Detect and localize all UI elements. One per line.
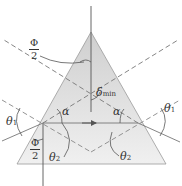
theta1-right-label: θ1 — [164, 103, 175, 114]
theta1-left-arc — [16, 108, 22, 136]
prism-diagram: Φ 2 δmin α α θ1 θ1 Φ 2 θ2 θ2 — [0, 0, 182, 186]
alpha-right-label: α — [113, 106, 120, 117]
alpha-left-label: α — [62, 106, 69, 117]
theta1-left-label: θ1 — [6, 116, 17, 127]
phi-half-bottom-label: Φ 2 — [30, 138, 40, 161]
prism-geometry — [0, 0, 182, 186]
delta-min-label: δmin — [96, 87, 116, 98]
theta2-right-label: θ2 — [120, 151, 131, 162]
theta2-left-label: θ2 — [49, 152, 60, 163]
phi-half-top-label: Φ 2 — [29, 38, 39, 61]
